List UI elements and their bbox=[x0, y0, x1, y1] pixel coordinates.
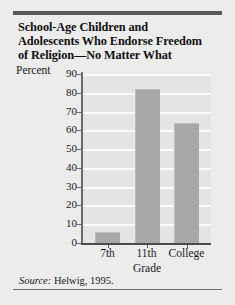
x-tick-label-college: College bbox=[159, 247, 214, 259]
figure-container: School-Age Children and Adolescents Who … bbox=[0, 0, 235, 305]
y-tick-mark bbox=[77, 168, 81, 169]
y-tick-mark bbox=[77, 224, 81, 225]
y-tick-mark bbox=[77, 112, 81, 113]
y-tick-label-20: 20 bbox=[51, 198, 77, 210]
y-tick-label-60: 60 bbox=[51, 123, 77, 135]
bottom-divider-rule bbox=[13, 289, 222, 290]
y-tick-mark bbox=[77, 74, 81, 75]
y-tick-mark bbox=[77, 187, 81, 188]
y-tick-label-10: 10 bbox=[51, 217, 77, 229]
y-tick-label-50: 50 bbox=[51, 142, 77, 154]
source-note: Source: Helwig, 1995. bbox=[19, 275, 114, 286]
y-tick-label-0: 0 bbox=[51, 236, 77, 248]
y-tick-label-70: 70 bbox=[51, 105, 77, 117]
y-tick-mark bbox=[77, 205, 81, 206]
y-tick-label-40: 40 bbox=[51, 161, 77, 173]
bar-11th bbox=[135, 89, 160, 243]
bar-college bbox=[174, 123, 199, 244]
plot-area bbox=[83, 74, 211, 243]
plot-wrapper: Percent 90 80 70 60 50 40 30 20 10 0 bbox=[0, 0, 235, 305]
source-note-label: Source: bbox=[19, 275, 51, 286]
source-note-text: Helwig, 1995. bbox=[51, 275, 113, 286]
y-tick-label-30: 30 bbox=[51, 180, 77, 192]
y-tick-mark bbox=[77, 149, 81, 150]
y-tick-label-80: 80 bbox=[51, 86, 77, 98]
x-axis-line bbox=[81, 243, 211, 245]
x-axis-label: Grade bbox=[83, 262, 211, 274]
y-axis-label: Percent bbox=[16, 64, 50, 76]
bar-7th bbox=[95, 232, 120, 243]
y-tick-mark bbox=[77, 130, 81, 131]
y-tick-label-90: 90 bbox=[51, 67, 77, 79]
gridline bbox=[83, 74, 211, 76]
y-tick-mark bbox=[77, 243, 81, 244]
y-axis-line bbox=[81, 72, 83, 245]
y-tick-mark bbox=[77, 93, 81, 94]
